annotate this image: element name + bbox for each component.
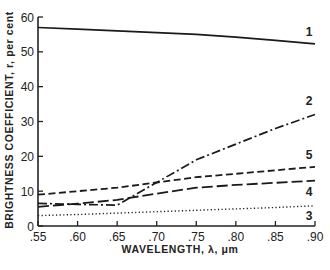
series-label-4: 4	[306, 185, 313, 199]
y-tick-label: 40	[21, 80, 35, 94]
x-tick-label: .55	[30, 230, 47, 244]
series-line-4	[38, 181, 315, 207]
series-line-3	[38, 206, 315, 216]
y-tick-label: 60	[21, 11, 35, 25]
brightness-chart: 0102030405060.55.60.65.70.75.80.85.90 12…	[0, 0, 330, 270]
y-tick-label: 30	[21, 115, 35, 129]
series-label-1: 1	[306, 25, 313, 39]
y-tick-label: 10	[21, 185, 35, 199]
x-tick-label: .90	[307, 230, 324, 244]
x-tick-label: .75	[188, 230, 205, 244]
x-tick-label: .60	[69, 230, 86, 244]
series-line-1	[38, 28, 315, 44]
y-tick-label: 50	[21, 45, 35, 59]
x-axis-title: WAVELENGTH, λ, μm	[122, 243, 239, 255]
series-label-2: 2	[306, 94, 313, 108]
x-tick-label: .85	[267, 230, 284, 244]
x-tick-label: .80	[228, 230, 245, 244]
series-label-3: 3	[306, 209, 313, 223]
x-tick-label: .65	[109, 230, 126, 244]
series-label-5: 5	[306, 148, 313, 162]
y-tick-label: 20	[21, 150, 35, 164]
x-tick-label: .70	[148, 230, 165, 244]
y-axis-title: BRIGHTNESS COEFFICIENT, r, per cent	[3, 11, 15, 229]
series-group: 12345	[38, 25, 315, 223]
